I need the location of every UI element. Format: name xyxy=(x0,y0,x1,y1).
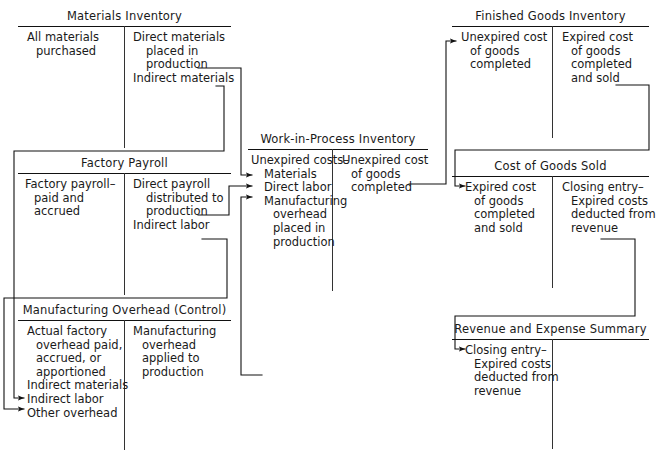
entry-line: Manufacturing xyxy=(133,325,233,339)
entry-line: Factory payroll– xyxy=(25,178,125,192)
account-title-revenue-and-expense-summary: Revenue and Expense Summary xyxy=(452,321,649,338)
entry-line: paid and xyxy=(25,192,125,206)
entry-line: apportioned xyxy=(27,366,127,380)
entry-line: Closing entry– xyxy=(562,181,652,195)
entry-line: Closing entry– xyxy=(465,344,557,358)
entry-line: of goods xyxy=(465,195,557,209)
account-title-manufacturing-overhead: Manufacturing Overhead (Control) xyxy=(18,302,231,319)
entry-line: production xyxy=(133,205,233,219)
account-finished-goods-inventory: Finished Goods Inventory Unexpired cost … xyxy=(452,8,649,138)
entry-line: of goods xyxy=(562,45,650,59)
debit-side-cost-of-goods-sold: Expired cost of goods completed and sold xyxy=(465,181,557,235)
entry-line: purchased xyxy=(27,45,125,59)
entry-line: All materials xyxy=(27,31,125,45)
debit-side-revenue-and-expense-summary: Closing entry– Expired costs deducted fr… xyxy=(465,344,557,398)
entry-line: Expired cost xyxy=(465,181,557,195)
entry-line: revenue xyxy=(465,385,557,399)
account-rule xyxy=(452,26,649,27)
entry-line: Indirect labor xyxy=(133,219,233,233)
entry-line: Indirect labor xyxy=(27,393,127,407)
entry-line: deducted from xyxy=(465,371,557,385)
entry-line: Direct materials xyxy=(133,31,233,45)
account-title-finished-goods-inventory: Finished Goods Inventory xyxy=(452,8,649,25)
entry-line: and sold xyxy=(562,72,650,86)
entry-line: accrued, or xyxy=(27,352,127,366)
credit-side-factory-payroll: Direct payroll distributed to production… xyxy=(133,178,233,232)
account-rule xyxy=(452,339,649,340)
entry-line: completed xyxy=(465,208,557,222)
entry-line: deducted from xyxy=(562,208,652,222)
debit-side-factory-payroll: Factory payroll– paid and accrued xyxy=(25,178,125,219)
account-title-cost-of-goods-sold: Cost of Goods Sold xyxy=(452,158,649,175)
entry-line: distributed to xyxy=(133,192,233,206)
credit-side-cost-of-goods-sold: Closing entry– Expired costs deducted fr… xyxy=(562,181,652,235)
account-work-in-process-inventory: Work-in-Process Inventory Unexpired cost… xyxy=(248,131,428,291)
entry-line: overhead paid, xyxy=(27,339,127,353)
entry-line: overhead xyxy=(251,208,335,222)
debit-side-work-in-process-inventory: Unexpired costs– Materials Direct labor … xyxy=(251,154,335,249)
entry-line: revenue xyxy=(562,222,652,236)
entry-line: Expired costs xyxy=(562,195,652,209)
entry-line: placed in xyxy=(133,45,233,59)
entry-line: Materials xyxy=(251,168,335,182)
entry-line: completed xyxy=(342,181,428,195)
entry-line: Manufacturing xyxy=(251,195,335,209)
account-title-materials-inventory: Materials Inventory xyxy=(18,8,231,25)
debit-side-materials-inventory: All materials purchased xyxy=(27,31,125,58)
account-factory-payroll: Factory Payroll Factory payroll– paid an… xyxy=(18,155,231,295)
debit-side-finished-goods-inventory: Unexpired cost of goods completed xyxy=(461,31,553,72)
entry-line: of goods xyxy=(342,168,428,182)
entry-line: and sold xyxy=(465,222,557,236)
entry-line: Indirect materials xyxy=(133,72,233,86)
credit-side-work-in-process-inventory: Unexpired cost of goods completed xyxy=(342,154,428,195)
debit-side-manufacturing-overhead: Actual factory overhead paid, accrued, o… xyxy=(27,325,127,420)
entry-line: Actual factory xyxy=(27,325,127,339)
entry-line: applied to xyxy=(133,352,233,366)
entry-line: production xyxy=(133,58,233,72)
account-rule xyxy=(452,176,649,177)
entry-line: Direct payroll xyxy=(133,178,233,192)
account-cost-of-goods-sold: Cost of Goods Sold Expired cost of goods… xyxy=(452,158,649,288)
credit-side-manufacturing-overhead: Manufacturing overhead applied to produc… xyxy=(133,325,233,379)
account-title-factory-payroll: Factory Payroll xyxy=(18,155,231,172)
account-title-work-in-process-inventory: Work-in-Process Inventory xyxy=(248,131,428,148)
entry-line: Expired costs xyxy=(465,358,557,372)
entry-line: Indirect materials xyxy=(27,379,127,393)
entry-line: of goods xyxy=(461,45,553,59)
entry-line: production xyxy=(133,366,233,380)
account-manufacturing-overhead: Manufacturing Overhead (Control) Actual … xyxy=(18,302,231,450)
entry-line: Unexpired cost xyxy=(461,31,553,45)
credit-side-finished-goods-inventory: Expired cost of goods completed and sold xyxy=(562,31,650,85)
entry-line: Direct labor xyxy=(251,181,335,195)
account-rule xyxy=(248,149,428,150)
entry-line: completed xyxy=(562,58,650,72)
diagram-canvas: Materials Inventory All materials purcha… xyxy=(0,0,663,452)
entry-line: Other overhead xyxy=(27,407,127,421)
account-revenue-and-expense-summary: Revenue and Expense Summary Closing entr… xyxy=(452,321,649,449)
entry-line: placed in xyxy=(251,222,335,236)
entry-line: Unexpired cost xyxy=(342,154,428,168)
account-materials-inventory: Materials Inventory All materials purcha… xyxy=(18,8,231,148)
entry-line: Expired cost xyxy=(562,31,650,45)
credit-side-materials-inventory: Direct materials placed in production In… xyxy=(133,31,233,85)
entry-line: accrued xyxy=(25,205,125,219)
entry-line: production xyxy=(251,236,335,250)
entry-line: completed xyxy=(461,58,553,72)
entry-line: overhead xyxy=(133,339,233,353)
entry-line: Unexpired costs– xyxy=(251,154,335,168)
